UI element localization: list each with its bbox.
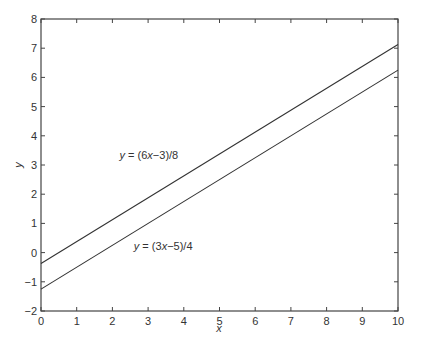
y-tick-label: 6 xyxy=(31,71,37,83)
line-chart: 012345678910−2−1012345678 y = (6x−3)/8y … xyxy=(0,0,423,351)
x-tick-label: 0 xyxy=(38,315,44,327)
series-line-1 xyxy=(41,45,398,264)
x-axis-label: x xyxy=(215,322,222,334)
y-tick-label: 3 xyxy=(31,159,37,171)
series-lines xyxy=(41,45,398,290)
y-tick-label: 0 xyxy=(31,247,37,259)
x-tick-label: 4 xyxy=(181,315,187,327)
plot-frame xyxy=(41,19,398,311)
x-tick-label: 2 xyxy=(109,315,115,327)
equation-label-2: y = (3x−5)/4 xyxy=(133,240,193,252)
x-tick-label: 10 xyxy=(392,315,404,327)
y-tick-label: 4 xyxy=(31,130,37,142)
y-tick-label: −1 xyxy=(24,276,37,288)
axis-ticks: 012345678910−2−1012345678 xyxy=(24,13,404,327)
y-tick-label: 8 xyxy=(31,13,37,25)
y-tick-label: 1 xyxy=(31,217,37,229)
plot-border xyxy=(41,19,398,311)
x-tick-label: 8 xyxy=(324,315,330,327)
y-axis-label: y xyxy=(12,161,24,169)
series-line-2 xyxy=(41,70,398,289)
annotations: y = (6x−3)/8y = (3x−5)/4 xyxy=(119,149,193,252)
x-tick-label: 1 xyxy=(74,315,80,327)
y-tick-label: 7 xyxy=(31,42,37,54)
y-tick-label: 2 xyxy=(31,188,37,200)
x-tick-label: 9 xyxy=(359,315,365,327)
x-tick-label: 6 xyxy=(252,315,258,327)
y-tick-label: 5 xyxy=(31,101,37,113)
y-tick-label: −2 xyxy=(24,305,37,317)
x-tick-label: 7 xyxy=(288,315,294,327)
equation-label-1: y = (6x−3)/8 xyxy=(119,149,179,161)
x-tick-label: 3 xyxy=(145,315,151,327)
